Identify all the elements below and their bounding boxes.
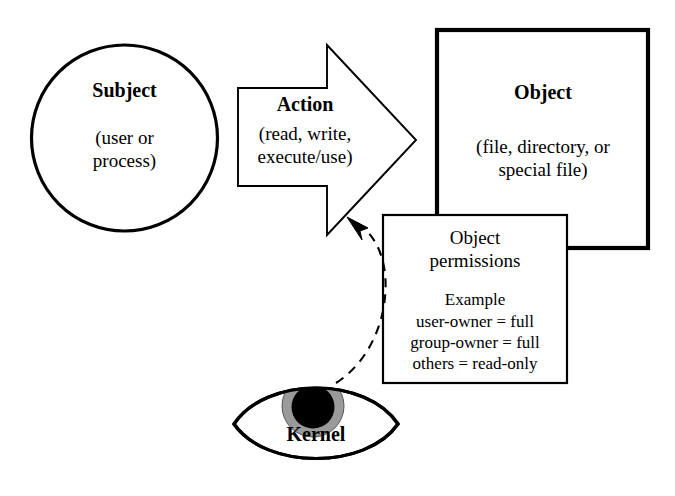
permissions-box xyxy=(383,215,567,383)
subject-circle xyxy=(32,45,218,231)
kernel-eye-pupil xyxy=(292,386,335,429)
kernel-mediation-curve xyxy=(336,220,386,383)
kernel-curve-arrowhead xyxy=(347,217,368,240)
action-arrow xyxy=(238,45,416,235)
diagram-shapes xyxy=(0,0,675,496)
kernel-eye-iris-group xyxy=(282,375,344,437)
diagram-canvas: Subject (user or process) Action (read, … xyxy=(0,0,675,496)
